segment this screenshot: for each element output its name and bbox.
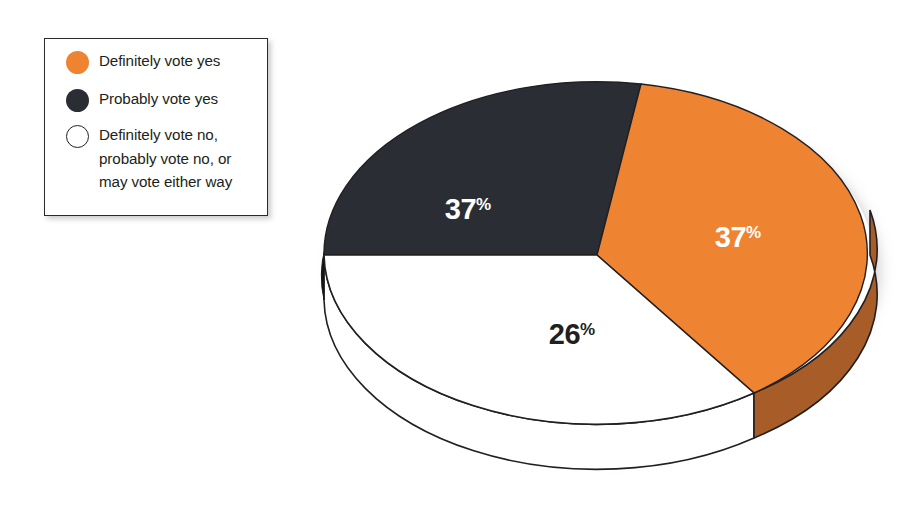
pie-label-value-probably-vote-yes: 37 xyxy=(445,193,476,225)
pie-label-value-definitely-vote-yes: 37 xyxy=(715,221,746,253)
pie-label-percent-sign-definitely-vote-yes: % xyxy=(746,223,761,242)
legend-swatch-vote-no-or-either-way xyxy=(66,125,89,148)
pie-label-probably-vote-yes: 37% xyxy=(445,193,491,226)
pie-label-percent-sign-probably-vote-yes: % xyxy=(476,195,491,214)
pie-label-vote-no-or-either-way: 26% xyxy=(549,318,595,351)
pie-label-percent-sign-vote-no-or-either-way: % xyxy=(580,320,595,339)
legend-swatch-probably-vote-yes xyxy=(66,89,89,112)
legend-label-definitely-vote-yes: Definitely vote yes xyxy=(99,49,220,73)
pie-slice-probably-vote-yes[interactable] xyxy=(324,82,641,255)
legend-swatch-definitely-vote-yes xyxy=(66,51,89,74)
legend-label-probably-vote-yes: Probably vote yes xyxy=(99,87,218,111)
pie-label-definitely-vote-yes: 37% xyxy=(715,221,761,254)
legend-label-vote-no-or-either-way: Definitely vote no, probably vote no, or… xyxy=(99,123,232,194)
pie-label-value-vote-no-or-either-way: 26 xyxy=(549,318,580,350)
chart-legend: Definitely vote yes Probably vote yes De… xyxy=(44,38,268,216)
pie-chart-figure: 37% 37% 26% Definitely vote yes Probably… xyxy=(0,0,912,517)
